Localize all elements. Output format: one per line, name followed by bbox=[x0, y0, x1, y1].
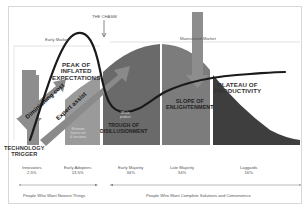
segment-innovators: Innovators 2.5% bbox=[22, 165, 42, 175]
segment-early-adopters: Early Adopters 13.5% bbox=[64, 165, 91, 175]
slope-label: SLOPE OF ENLIGHTENMENT bbox=[166, 98, 214, 111]
trigger-label: TECHNOLOGY TRIGGER bbox=[4, 145, 44, 158]
mainstream-market-arrow bbox=[186, 12, 209, 88]
mainstream-market-label: Mainstream Market bbox=[180, 36, 216, 41]
plateau-label: PLATEAU OF PRODUCTIVITY bbox=[214, 82, 261, 95]
early-adopters-note: Minimum feature set & Iterations bbox=[70, 128, 86, 139]
trough-label: TROUGH OF DISILLUSIONMENT bbox=[100, 122, 147, 135]
segment-early-majority: Early Majority 34% bbox=[118, 165, 143, 175]
early-market-label: Early Market bbox=[45, 37, 69, 42]
hype-cycle-adoption-diagram bbox=[0, 0, 308, 209]
segment-laggards: Laggards 16% bbox=[240, 165, 257, 175]
chasm-label: THE CHASM bbox=[92, 14, 117, 19]
footer-right-label: People Who Want Complete Solutions and C… bbox=[146, 193, 251, 198]
peak-label: PEAK OF INFLATED EXPECTATIONS bbox=[52, 62, 100, 81]
early-majority-note: Whole product bbox=[120, 112, 131, 120]
footer-left-label: People Who Want Newest Things bbox=[23, 193, 85, 198]
segment-late-majority: Late Majority 34% bbox=[170, 165, 194, 175]
